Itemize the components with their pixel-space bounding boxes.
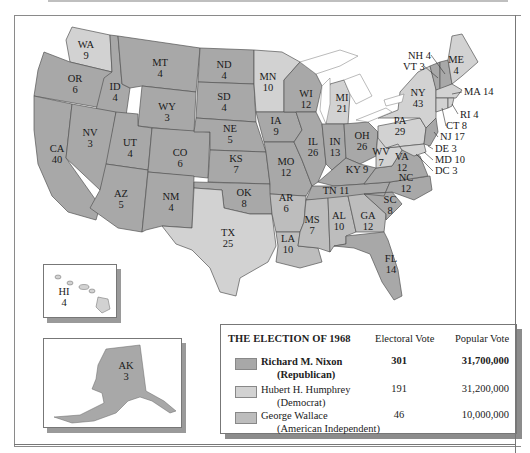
label-ri: RI 4 [460,109,479,120]
label-mo: MO [278,156,295,167]
label-tn: TN 11 [323,185,350,196]
votes-oh: 26 [357,141,368,152]
votes-ny: 43 [413,98,424,109]
votes-ca: 40 [52,154,63,165]
label-hi: HI [58,286,70,297]
label-ms: MS [304,214,319,225]
label-sc: SC [384,194,397,205]
votes-wi: 12 [301,99,312,110]
swatch-american-independent [235,412,257,424]
label-va: VA [395,151,409,162]
votes-sc: 8 [387,205,392,216]
label-nh: NH 4 [408,50,432,61]
label-ks: KS [229,153,243,164]
votes-in: 13 [330,147,341,158]
electoral-vote: 46 [379,409,419,420]
frame-bottom-border [14,444,516,445]
label-ct: CT 8 [446,120,467,131]
label-de: DE 3 [435,143,457,154]
label-md: MD 10 [435,154,465,165]
votes-ok: 8 [241,198,246,209]
swatch-republican [235,358,257,370]
votes-mt: 4 [157,68,163,79]
votes-hi: 4 [61,297,67,308]
candidate-name: Hubert H. Humphrey (Democrat) [261,383,351,409]
label-ak: AK [118,360,134,371]
votes-pa: 29 [395,126,406,137]
swatch-democrat [235,386,257,398]
votes-wv: 7 [378,157,383,168]
label-ia: IA [270,115,281,126]
votes-wy: 3 [164,112,169,123]
label-il: IL [308,136,318,147]
candidate-name: Richard M. Nixon (Republican) [261,355,342,381]
votes-il: 26 [308,147,319,158]
label-me: ME [448,54,464,65]
votes-co: 6 [177,158,182,169]
label-co: CO [173,147,188,158]
label-sd: SD [217,91,231,102]
votes-ia: 9 [273,126,278,137]
label-nv: NV [82,127,98,138]
votes-me: 4 [453,65,459,76]
alaska-shape-icon: AK 3 [44,339,181,427]
label-dc: DC 3 [435,165,457,176]
votes-ne: 5 [227,134,232,145]
label-nj: NJ 17 [440,131,465,142]
label-wv: WV [372,146,390,157]
votes-ms: 7 [309,225,314,236]
votes-al: 10 [334,221,345,232]
label-wi: WI [299,88,313,99]
label-fl: FL [385,253,397,264]
votes-nv: 3 [87,138,92,149]
electoral-vote: 191 [379,383,419,394]
legend-row-wallace: George Wallace (American Independent) 46… [221,409,516,439]
votes-fl: 14 [386,264,397,275]
label-nd: ND [216,59,232,70]
label-tx: TX [221,227,235,238]
votes-mn: 10 [263,82,274,93]
votes-ks: 7 [233,164,238,175]
label-ky: KY 9 [346,164,369,175]
label-mt: MT [152,57,168,68]
frame-right-border [515,15,516,453]
label-wa: WA [78,39,95,50]
label-nc: NC [399,172,414,183]
state-ri [448,98,454,108]
election-legend: THE ELECTION OF 1968 Electoral Vote Popu… [220,324,517,434]
label-ut: UT [123,137,138,148]
label-ma: MA 14 [464,86,494,97]
votes-ga: 12 [363,221,374,232]
state-ny [378,66,436,128]
label-mn: MN [260,71,277,82]
label-wy: WY [158,101,176,112]
label-mi: MI [336,92,349,103]
hawaii-inset: HI 4 [43,264,117,318]
votes-mi: 21 [337,103,348,114]
popular-vote: 31,700,000 [443,355,509,366]
votes-or: 6 [72,84,77,95]
votes-id: 4 [112,92,118,103]
votes-sd: 4 [221,102,227,113]
label-nm: NM [163,191,181,202]
votes-nm: 4 [168,202,174,213]
legend-row-nixon: Richard M. Nixon (Republican) 301 31,700… [221,355,516,385]
label-pa: PA [394,115,407,126]
label-ok: OK [236,187,252,198]
candidate-name: George Wallace (American Independent) [261,409,380,435]
label-or: OR [68,73,83,84]
label-ny: NY [410,87,426,98]
hawaii-islands-icon: HI 4 [44,265,116,317]
label-ga: GA [360,210,376,221]
label-ar: AR [279,192,294,203]
state-ct [436,98,448,112]
alaska-inset: AK 3 [43,338,182,428]
legend-col-popular: Popular Vote [455,333,509,344]
votes-tx: 25 [223,238,234,249]
votes-az: 5 [118,199,123,210]
popular-vote: 31,200,000 [443,383,509,394]
votes-ut: 4 [127,148,133,159]
label-al: AL [332,210,346,221]
votes-wa: 9 [83,50,88,61]
label-ne: NE [223,123,237,134]
